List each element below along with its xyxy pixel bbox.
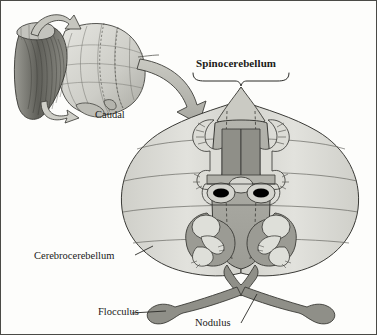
spinocerebellum-brace xyxy=(193,73,289,86)
homunculus-head-left xyxy=(192,215,220,239)
eye-right xyxy=(253,188,269,197)
label-nodulus: Nodulus xyxy=(195,317,231,328)
figure-frame: Spinocerebellum Cerebrocerebellum Floccu… xyxy=(0,0,377,335)
label-spinocerebellum: Spinocerebellum xyxy=(196,57,276,69)
label-caudal: Caudal xyxy=(95,109,125,120)
homunculus-head-right xyxy=(262,215,290,239)
flocculonodular-lobe xyxy=(147,265,335,324)
cerebellum-diagram xyxy=(1,1,377,335)
main-cerebellum xyxy=(121,73,358,324)
label-cerebrocerebellum: Cerebrocerebellum xyxy=(34,250,114,261)
label-flocculus: Flocculus xyxy=(98,306,139,317)
inset-cerebellum-body xyxy=(58,24,145,116)
eye-left xyxy=(213,188,229,197)
flocculus-right xyxy=(241,287,335,324)
